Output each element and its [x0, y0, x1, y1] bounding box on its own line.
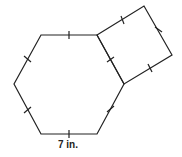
- diagram-canvas: [0, 0, 182, 157]
- square-shape: [97, 6, 172, 84]
- hexagon-shape: [14, 35, 124, 134]
- tick-marks: [24, 16, 162, 138]
- side-length-label: 7 in.: [58, 139, 78, 150]
